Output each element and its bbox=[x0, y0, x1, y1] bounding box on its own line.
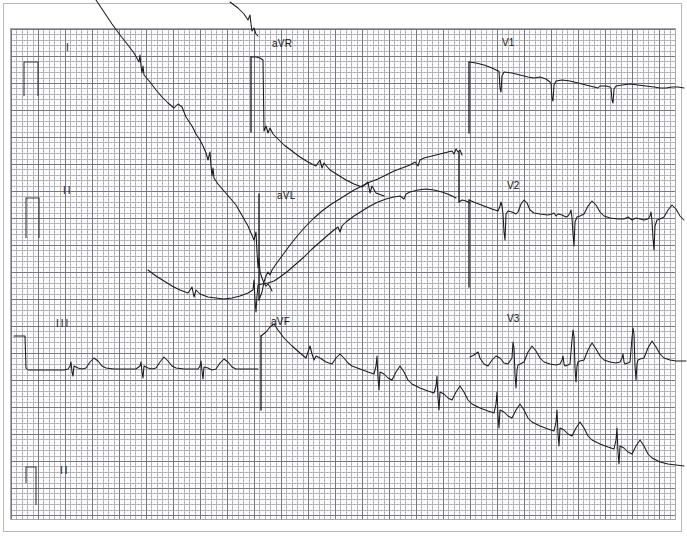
trace-lead-v2 bbox=[469, 200, 684, 250]
lead-label-avr: aVR bbox=[272, 38, 292, 49]
lead-label-avl: aVL bbox=[277, 190, 295, 201]
calibration-pulse-lead-i bbox=[24, 62, 38, 96]
lead-label-avf: aVF bbox=[271, 316, 290, 327]
trace-lead-v1 bbox=[469, 62, 684, 103]
calibration-pulse-lead-ii bbox=[26, 198, 39, 238]
ecg-page: I aVR V1 II aVL V2 III aVF V3 II bbox=[0, 0, 687, 537]
lead-label-v2: V2 bbox=[507, 180, 520, 191]
ecg-waveform-canvas bbox=[0, 0, 687, 537]
trace-lead-avl bbox=[259, 149, 462, 300]
lead-label-iii: III bbox=[56, 318, 70, 329]
lead-label-v1: V1 bbox=[502, 37, 515, 48]
ecg-traces bbox=[0, 0, 687, 537]
trace-lead-avf bbox=[261, 324, 684, 466]
trace-lead-iii bbox=[14, 336, 258, 379]
trace-lead-i bbox=[96, 0, 272, 291]
trace-lead-ii bbox=[148, 189, 456, 312]
lead-label-v3: V3 bbox=[507, 313, 520, 324]
calibration-pulse-rhythm-ii bbox=[26, 467, 36, 505]
trace-lead-v3 bbox=[470, 328, 686, 388]
lead-label-ii: II bbox=[63, 185, 73, 196]
trace-lead-avr-body bbox=[251, 57, 384, 196]
lead-label-rhythm-ii: II bbox=[60, 465, 70, 476]
lead-label-i: I bbox=[66, 42, 69, 53]
trace-lead-avr bbox=[230, 2, 258, 36]
